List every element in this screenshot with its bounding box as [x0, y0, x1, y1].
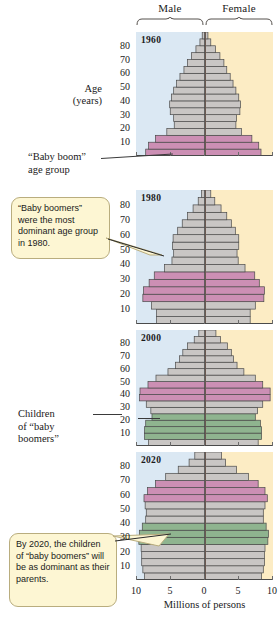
bar-female [205, 452, 222, 459]
x-axis-tick-label: 10 [267, 585, 277, 596]
y-axis-tick-label: 30 [120, 533, 130, 541]
bar-female [205, 94, 239, 101]
children-label-line3: boomers” [18, 433, 94, 446]
y-axis-tick-label: 80 [120, 42, 130, 50]
x-axis-tick [136, 576, 137, 580]
bar-male [146, 420, 205, 426]
bar-female [205, 257, 239, 264]
bar-female [205, 279, 260, 286]
y-axis-tick-label: 70 [120, 216, 130, 224]
bar-female [205, 235, 239, 242]
bar-female [205, 302, 256, 309]
y-axis-tick-label: 40 [120, 390, 130, 398]
bar-male [194, 336, 204, 342]
bar-male [147, 488, 204, 495]
bar-male [140, 388, 205, 394]
x-axis-tick [204, 442, 205, 446]
x-axis-tick [204, 320, 205, 324]
x-axis-tick [136, 442, 137, 446]
bar-female [205, 559, 265, 566]
bar-male [157, 309, 205, 316]
bar-female [205, 108, 240, 115]
y-axis-tick-label: 20 [120, 548, 130, 556]
x-axis-tick [272, 442, 273, 446]
y-axis-1980: 1020304050607080 [104, 190, 130, 324]
male-brace-icon [136, 17, 204, 25]
bar-male [165, 264, 205, 271]
bar-male [174, 250, 205, 257]
bar-male [173, 242, 205, 249]
bar-female [205, 46, 216, 53]
sex-header: Male Female [136, 2, 273, 32]
bar-male [180, 73, 205, 80]
bar-female [205, 242, 239, 249]
y-axis-tick-label: 80 [120, 462, 130, 470]
bar-male [149, 279, 204, 286]
panel-year-label-2000: 2000 [141, 333, 161, 343]
population-pyramid-figure: Male Female Age (years) 1960198020002020… [0, 0, 279, 624]
y-axis-tick-label: 40 [120, 519, 130, 527]
female-header-label: Female [205, 2, 273, 14]
y-axis-tick-label: 70 [120, 352, 130, 360]
panel-center-line [205, 32, 206, 156]
bar-male [145, 427, 205, 433]
y-axis-tick-label: 10 [120, 429, 130, 437]
y-axis-tick-label: 50 [120, 83, 130, 91]
bar-male [143, 294, 205, 301]
bar-female [205, 502, 266, 509]
y-axis-tick-label: 20 [120, 290, 130, 298]
bar-male [148, 382, 205, 388]
panel-center-line [205, 452, 206, 580]
bar-female [205, 115, 237, 122]
y-axis-tick-label: 20 [120, 416, 130, 424]
bar-female [205, 135, 252, 142]
bar-female [205, 495, 268, 502]
bar-female [205, 330, 216, 336]
bar-male [155, 135, 204, 142]
bar-female [205, 80, 234, 87]
panel-center-line [205, 330, 206, 446]
bar-female [205, 60, 224, 67]
x-axis-tick [170, 576, 171, 580]
bar-female [205, 349, 232, 355]
bar-male [189, 459, 204, 466]
bar-male [191, 53, 204, 60]
bar-female [205, 375, 256, 381]
bar-male [183, 349, 205, 355]
bar-male [144, 495, 205, 502]
bar-female [205, 142, 259, 149]
y-axis-tick-label: 30 [120, 275, 130, 283]
bar-female [205, 362, 238, 368]
bar-male [187, 60, 204, 67]
callout-1980: “Baby boomers” were the most dominant ag… [11, 197, 110, 259]
bar-male [143, 287, 204, 294]
bar-male [174, 87, 205, 94]
bar-female [205, 53, 220, 60]
y-axis-2020: 1020304050607080 [104, 452, 130, 580]
bar-female [205, 488, 266, 495]
y-axis-title: Age (years) [44, 83, 102, 107]
bar-female [205, 101, 241, 108]
y-axis-tick-label: 60 [120, 231, 130, 239]
bar-male [178, 227, 205, 234]
bar-female [205, 394, 271, 400]
bar-male [187, 212, 204, 219]
bar-male [177, 80, 205, 87]
children-leader-line-2 [138, 418, 160, 419]
y-axis-tick-label: 70 [120, 476, 130, 484]
x-axis-tick-labels: 1050510 [136, 585, 273, 597]
x-axis-tick [238, 320, 239, 324]
bar-female [205, 356, 234, 362]
bar-female [205, 473, 249, 480]
bar-female [205, 420, 261, 426]
x-axis-tick-label: 5 [168, 585, 173, 596]
bar-female [205, 566, 264, 573]
y-axis-tick-label: 10 [120, 562, 130, 570]
bar-female [205, 309, 251, 316]
y-axis-tick-label: 80 [120, 201, 130, 209]
baby-boom-leader-label: “Baby boom” age group [28, 151, 102, 176]
bar-female [205, 509, 264, 516]
pyramid-panel-2020: 2020 [136, 452, 273, 580]
children-leader-label: Children of “baby boomers” [18, 408, 94, 446]
y-axis-tick-label: 60 [120, 69, 130, 77]
